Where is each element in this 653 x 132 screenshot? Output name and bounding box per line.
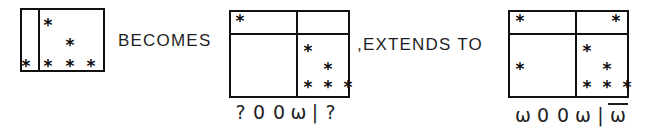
asterisk-mark: * — [581, 81, 594, 94]
caption-symbol: ? — [232, 103, 249, 122]
caption-middle: ?00ω|? — [232, 103, 339, 122]
asterisk-mark: * — [514, 15, 527, 28]
caption-right: ω00ω|ω — [513, 103, 628, 125]
caption-symbol: ? — [322, 103, 339, 122]
asterisk-mark: * — [42, 19, 55, 32]
middle-diagram: ****** — [229, 10, 350, 98]
caption-symbol: 0 — [553, 106, 573, 125]
asterisk-mark: * — [20, 60, 33, 73]
figure-canvas: ************?00ω|?********ω00ω|ωBECOMES,… — [0, 0, 653, 132]
asterisk-mark: * — [601, 63, 614, 76]
panel-middle-vertical-divider-0 — [296, 10, 298, 98]
caption-symbol: ω — [608, 103, 628, 125]
panel-left-vertical-divider-0 — [38, 8, 40, 72]
caption-symbol: 0 — [533, 106, 553, 125]
right-diagram: ******** — [508, 10, 629, 98]
asterisk-mark: * — [42, 60, 55, 73]
asterisk-mark: * — [621, 81, 634, 94]
asterisk-mark: * — [581, 45, 594, 58]
connector-text-becomes: BECOMES — [118, 31, 211, 51]
caption-symbol: ω — [289, 103, 308, 122]
caption-symbol: ω — [513, 106, 533, 125]
caption-symbol: ω — [573, 106, 593, 125]
asterisk-mark: * — [85, 60, 98, 73]
asterisk-mark: * — [322, 81, 335, 94]
asterisk-mark: * — [342, 81, 355, 94]
panel-middle-horizontal-divider-0 — [229, 33, 350, 35]
caption-symbol: 0 — [249, 103, 269, 122]
caption-symbol: | — [593, 106, 608, 125]
asterisk-mark: * — [64, 39, 77, 52]
connector-text-extends-to: ,EXTENDS TO — [357, 35, 483, 55]
panel-right-horizontal-divider-0 — [508, 33, 629, 35]
caption-symbol: 0 — [269, 103, 289, 122]
asterisk-mark: * — [64, 60, 77, 73]
asterisk-mark: * — [322, 63, 335, 76]
left-diagram: ****** — [20, 8, 105, 72]
asterisk-mark: * — [601, 81, 614, 94]
asterisk-mark: * — [234, 15, 247, 28]
panel-right-vertical-divider-0 — [575, 10, 577, 98]
asterisk-mark: * — [514, 63, 527, 76]
asterisk-mark: * — [302, 81, 315, 94]
caption-symbol: | — [308, 103, 322, 122]
asterisk-mark: * — [610, 15, 623, 28]
asterisk-mark: * — [302, 45, 315, 58]
